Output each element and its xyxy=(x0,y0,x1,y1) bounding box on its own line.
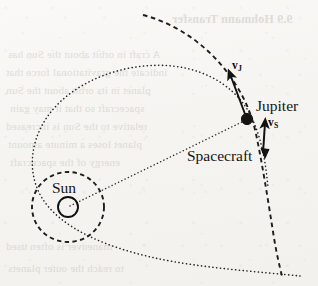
velocity-vector-spacecraft-tail xyxy=(261,148,269,158)
sun-label: Sun xyxy=(52,180,76,196)
jupiter-body xyxy=(241,113,252,124)
diagram-canvas xyxy=(0,0,318,286)
gravity-assist-figure: 9.9 Hohmann Transfer A craft in orbit ab… xyxy=(0,0,318,286)
velocity-jupiter-subscript: J xyxy=(238,64,242,73)
velocity-spacecraft-symbol: v xyxy=(268,116,274,128)
jupiter-orbit-arc xyxy=(143,15,282,276)
velocity-jupiter-symbol: v xyxy=(232,59,238,71)
jupiter-label: Jupiter xyxy=(256,98,298,114)
spacecraft-label: Spacecraft xyxy=(187,148,252,164)
velocity-spacecraft-subscript: S xyxy=(274,121,278,130)
velocity-vector-jupiter-arrow xyxy=(230,74,245,114)
velocity-spacecraft-label: vS xyxy=(268,117,278,129)
velocity-jupiter-label: vJ xyxy=(232,60,242,72)
sun-body xyxy=(58,197,78,217)
